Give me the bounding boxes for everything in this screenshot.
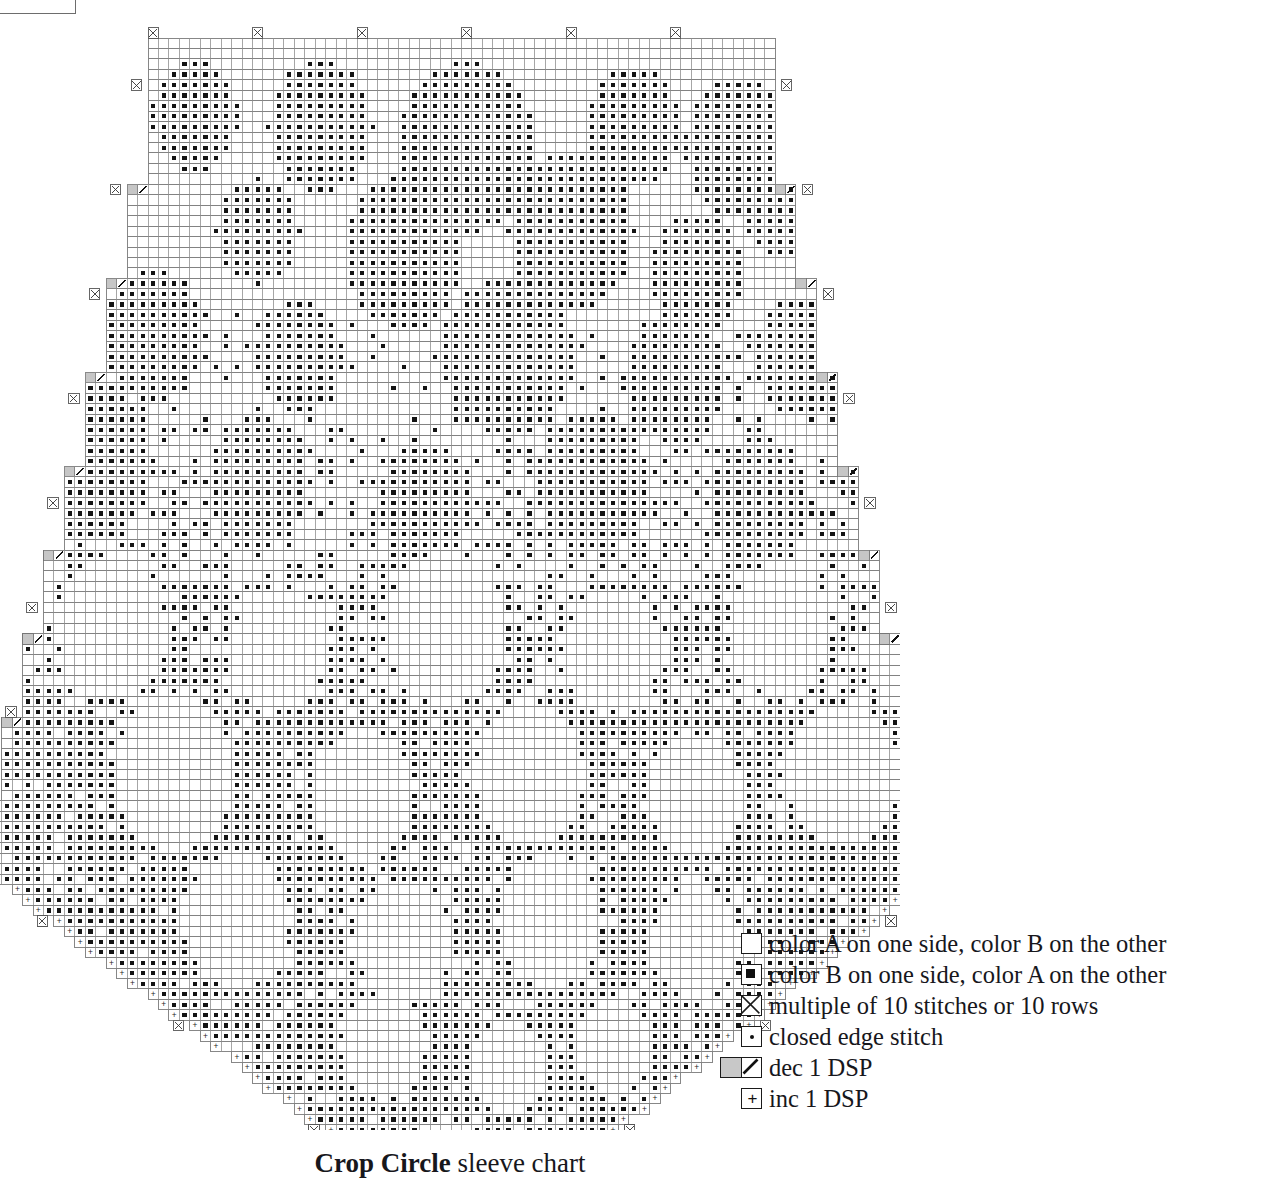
caption-suffix: sleeve chart [451,1148,586,1178]
svg-text:+: + [882,905,887,915]
svg-text:+: + [57,916,62,926]
svg-text:+: + [161,999,166,1009]
svg-text:+: + [893,895,898,905]
svg-text:+: + [25,895,30,905]
legend-item-closed-edge: closed edge stitch [718,1021,1258,1052]
svg-text:+: + [694,1062,699,1072]
svg-text:+: + [308,1114,313,1124]
svg-text:+: + [15,884,20,894]
caption-pattern-name: Crop Circle [314,1148,450,1178]
svg-text:+: + [172,1010,177,1020]
multiple-of-10-marker [781,80,791,90]
svg-text:+: + [255,1072,260,1082]
svg-text:+: + [193,1020,198,1030]
svg-text:+: + [611,1125,616,1130]
legend-label-color-a: color A on one side, color B on the othe… [769,931,1166,957]
multiple-of-10-marker [110,184,120,194]
multiple-of-10-marker [802,184,812,194]
chart-caption: Crop Circle sleeve chart [0,1148,900,1179]
svg-text:+: + [234,1052,239,1062]
multiple-of-10-marker [357,28,367,38]
legend-item-multiple-of-10: multiple of 10 stitches or 10 rows [718,990,1258,1021]
multiple-of-10-marker [566,28,576,38]
svg-text:+: + [266,1083,271,1093]
chart-page: —y— ++++++++++++++++++++++++++++++++++++… [0,0,1261,1189]
multiple-of-10-marker [89,289,99,299]
inc-dsp-icon [718,1087,762,1111]
svg-text:+: + [328,1125,333,1130]
multiple-of-10-marker [462,28,472,38]
legend-label-inc: inc 1 DSP [769,1086,868,1112]
legend-label-closed-edge: closed edge stitch [769,1024,943,1050]
dec-dsp-icon [718,1056,762,1080]
crossed-square-icon [718,994,762,1018]
svg-text:+: + [621,1114,626,1124]
multiple-of-10-marker [6,707,16,717]
legend-label-dec: dec 1 DSP [769,1055,872,1081]
svg-text:+: + [297,1104,302,1114]
legend-item-inc: inc 1 DSP [718,1083,1258,1114]
svg-text:+: + [642,1104,647,1114]
multiple-of-10-marker [671,28,681,38]
filled-square-icon [718,963,762,987]
legend-label-color-b: color B on one side, color A on the othe… [769,962,1166,988]
multiple-of-10-marker [173,1020,183,1030]
multiple-of-10-marker [886,602,896,612]
svg-text:+: + [287,1093,292,1103]
legend-label-multiple-of-10: multiple of 10 stitches or 10 rows [769,993,1098,1019]
multiple-of-10-marker [309,1125,319,1130]
empty-square-icon [718,932,762,956]
multiple-of-10-marker [48,498,58,508]
multiple-of-10-marker [69,393,79,403]
svg-text:+: + [151,989,156,999]
multiple-of-10-marker [625,1125,635,1130]
chart-legend: color A on one side, color B on the othe… [718,928,1258,1114]
multiple-of-10-marker [844,393,854,403]
multiple-of-10-marker [148,28,158,38]
svg-text:+: + [213,1041,218,1051]
svg-text:+: + [652,1093,657,1103]
svg-text:+: + [67,926,72,936]
multiple-of-10-marker [37,916,47,926]
multiple-of-10-marker [865,498,875,508]
multiple-of-10-marker [253,28,263,38]
svg-text:+: + [119,968,124,978]
svg-text:+: + [88,947,93,957]
legend-item-color-a: color A on one side, color B on the othe… [718,928,1258,959]
legend-item-color-b: color B on one side, color A on the othe… [718,959,1258,990]
legend-item-dec: dec 1 DSP [718,1052,1258,1083]
multiple-of-10-marker [27,602,37,612]
multiple-of-10-marker [823,289,833,299]
svg-text:+: + [663,1083,668,1093]
svg-text:+: + [245,1062,250,1072]
svg-text:+: + [36,905,41,915]
dotted-square-icon [718,1025,762,1049]
svg-text:+: + [109,958,114,968]
svg-text:+: + [130,978,135,988]
svg-text:+: + [705,1052,710,1062]
svg-text:+: + [203,1031,208,1041]
svg-text:+: + [78,937,83,947]
multiple-of-10-marker [886,916,896,926]
multiple-of-10-marker [131,80,141,90]
svg-text:+: + [872,916,877,926]
svg-text:+: + [673,1072,678,1082]
